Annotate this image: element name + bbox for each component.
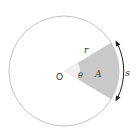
arc-length-label: s <box>125 67 130 78</box>
circle-sector-diagram: O r θ A s <box>0 0 139 129</box>
area-label: A <box>94 69 102 79</box>
arrowhead-top-icon <box>116 41 121 47</box>
arrowhead-bottom-icon <box>116 96 121 102</box>
radius-label: r <box>84 45 89 55</box>
angle-label: θ <box>78 71 83 80</box>
center-label: O <box>56 72 63 82</box>
